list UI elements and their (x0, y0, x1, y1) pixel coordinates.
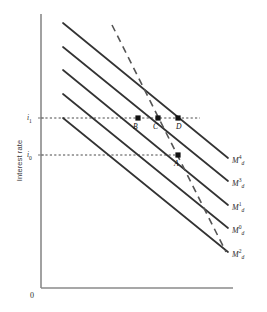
marker-point-d (175, 115, 180, 120)
y-tick-i-one: i1 (27, 113, 32, 124)
y-tick-i-zero-subscript: 0 (29, 155, 32, 161)
curve-label-md2-subscript: d (241, 254, 244, 260)
label-point-c: C (153, 122, 158, 131)
curve-label-md3-subscript: d (241, 183, 244, 189)
y-tick-i-zero: i0 (27, 150, 32, 161)
curve-label-md0: M0d (232, 224, 244, 236)
curve-label-md0-base: M (232, 226, 239, 235)
curve-label-md4: M4d (232, 154, 244, 166)
label-point-b: B (133, 122, 138, 131)
marker-point-b (135, 115, 140, 120)
curve-steep-money-demand (112, 25, 226, 252)
marker-point-c (155, 115, 160, 120)
origin-label: 0 (30, 291, 34, 300)
money-demand-diagram: Interest rate 0 i1i0 BCDA M4dM3dM1dM0dM2… (0, 0, 267, 312)
curve-label-md3: M3d (232, 177, 244, 189)
label-point-a: A (174, 159, 179, 168)
label-point-d: D (176, 122, 181, 131)
curve-label-md1: M1d (232, 201, 244, 213)
curve-label-md2-base: M (232, 250, 239, 259)
diagram-canvas (0, 0, 267, 312)
marker-point-a (175, 152, 180, 157)
curve-label-md3-base: M (232, 179, 239, 188)
curve-label-md4-subscript: d (241, 160, 244, 166)
curve-label-md4-base: M (232, 156, 239, 165)
y-tick-i-one-subscript: 1 (29, 118, 32, 124)
curve-label-md0-subscript: d (241, 230, 244, 236)
curve-label-md2: M2d (232, 248, 244, 260)
curve-label-md1-subscript: d (241, 207, 244, 213)
y-axis-title: Interest rate (15, 116, 24, 206)
curve-label-md1-base: M (232, 203, 239, 212)
